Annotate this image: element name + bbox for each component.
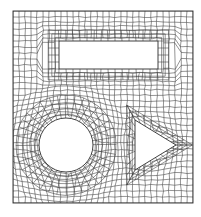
rectangle-hole [59,41,158,69]
circle-hole [39,118,93,172]
mesh-svg [0,0,201,217]
mesh-edges [13,11,193,203]
mesh-lines [0,0,201,217]
triangle-hole [135,120,176,170]
mesh-diagram [0,0,201,217]
